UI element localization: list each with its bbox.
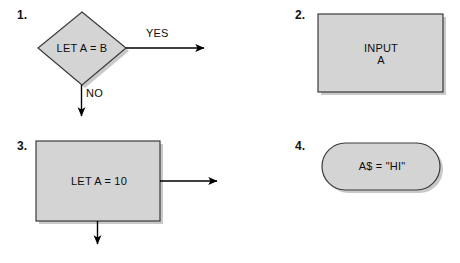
item-number-4: 4. xyxy=(295,140,305,152)
process-label-2: INPUT A xyxy=(320,42,442,66)
process-label-3: LET A = 10 xyxy=(38,175,160,187)
item-number-3: 3. xyxy=(17,140,27,152)
decision-label-1: LET A = B xyxy=(38,42,126,54)
connector-label-no: NO xyxy=(86,87,103,99)
flowchart-canvas xyxy=(0,0,460,263)
terminator-label-4: A$ = "HI" xyxy=(324,160,440,172)
item-number-2: 2. xyxy=(295,9,305,21)
item-number-1: 1. xyxy=(17,9,27,21)
connector-label-yes: YES xyxy=(146,27,169,39)
